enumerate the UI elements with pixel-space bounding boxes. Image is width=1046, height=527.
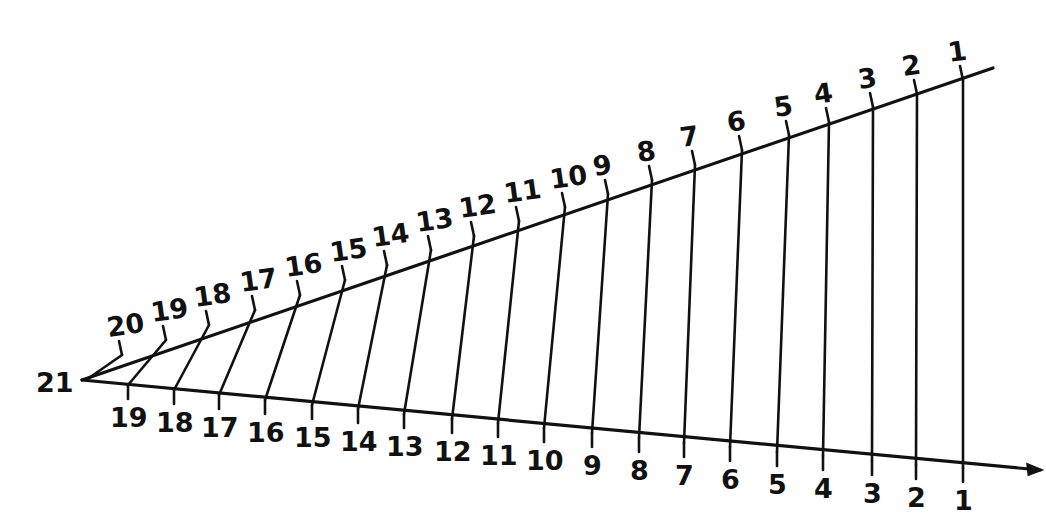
tick-labels: 1234567891011121314151617181920123456789… (105, 35, 973, 516)
tick-mark (384, 251, 387, 265)
curve-stitching-diagram: 1234567891011121314151617181920123456789… (0, 0, 1046, 527)
tick-mark (516, 207, 519, 221)
lower-tick-label: 19 (110, 402, 148, 433)
stitch-line (544, 207, 565, 428)
tick-mark (252, 296, 255, 310)
lower-tick-label: 14 (340, 426, 378, 457)
stitch-line (174, 325, 209, 390)
upper-tick-label: 13 (414, 202, 456, 238)
upper-tick-label: 12 (457, 188, 499, 224)
stitch-line (404, 250, 431, 414)
upper-tick-label: 4 (812, 77, 835, 110)
tick-mark (562, 193, 565, 207)
tick-mark (786, 121, 789, 135)
upper-tick-label: 17 (238, 262, 280, 298)
lower-tick-label: 13 (386, 431, 424, 462)
lower-tick-label: 7 (675, 460, 694, 491)
stitch-line (639, 180, 652, 438)
stitch-line (684, 165, 695, 443)
tick-mark (297, 281, 300, 295)
lower-tick-label: 5 (768, 469, 787, 500)
upper-tick-label: 10 (548, 159, 590, 195)
lower-tick-label: 9 (583, 450, 602, 481)
lower-tick-label: 4 (814, 473, 833, 504)
tick-mark (342, 266, 345, 280)
upper-tick-label: 19 (149, 292, 191, 328)
upper-tick-label: 18 (192, 277, 234, 313)
tick-mark (826, 108, 829, 122)
lower-tick-label: 2 (907, 482, 926, 513)
stitch-line (592, 194, 608, 433)
upper-tick-label: 6 (725, 105, 748, 138)
upper-tick-label: 8 (635, 135, 658, 168)
stitch-lines (86, 80, 963, 468)
upper-tick-label: 15 (328, 232, 370, 268)
tick-mark (119, 341, 122, 355)
upper-tick-label: 11 (502, 173, 544, 209)
stitch-line (730, 150, 742, 447)
upper-tick-label: 7 (678, 120, 701, 153)
lower-tick-label: 18 (156, 407, 194, 438)
lower-tick-label: 12 (434, 436, 472, 467)
lower-tick-label: 15 (294, 422, 332, 453)
tick-mark (870, 93, 873, 107)
tick-mark (206, 311, 209, 325)
arrowhead-icon (1028, 465, 1040, 474)
lower-tick-label: 6 (721, 464, 740, 495)
lower-tick-label: 10 (526, 445, 564, 476)
vertex-label: 21 (36, 367, 74, 398)
stitch-line (916, 94, 917, 465)
upper-axis-line (82, 68, 993, 380)
lower-tick-label: 16 (247, 417, 285, 448)
lower-tick-label: 3 (863, 478, 882, 509)
upper-tick-label: 3 (856, 62, 879, 95)
stitch-line (358, 265, 387, 409)
tick-mark (428, 236, 431, 250)
tick-mark (605, 180, 608, 194)
upper-tick-label: 2 (900, 49, 923, 82)
lower-tick-label: 17 (201, 412, 239, 443)
tick-mark (914, 80, 917, 94)
tick-mark (163, 326, 166, 340)
upper-tick-label: 14 (370, 217, 412, 253)
stitch-line (777, 135, 789, 452)
tick-mark (739, 136, 742, 150)
stitch-line (823, 122, 829, 456)
upper-tick-label: 5 (772, 90, 795, 123)
tick-mark (649, 166, 652, 180)
tick-mark (471, 222, 474, 236)
lower-tick-label: 8 (630, 455, 649, 486)
lower-tick-label: 11 (480, 440, 518, 471)
tick-mark (692, 151, 695, 165)
upper-tick-label: 9 (591, 149, 614, 182)
stitch-line (452, 236, 474, 419)
lower-tick-label: 1 (954, 485, 973, 516)
upper-tick-label: 16 (283, 247, 325, 283)
upper-tick-label: 20 (105, 307, 147, 343)
upper-tick-label: 1 (946, 35, 969, 68)
stitch-line (498, 221, 519, 423)
stitch-line (872, 107, 873, 461)
